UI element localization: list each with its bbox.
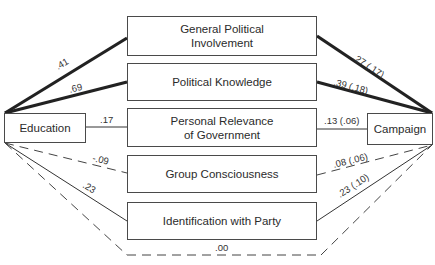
coef-camp-knowledge: .39 (.18) [332, 76, 369, 96]
node-group-consciousness: Group Consciousness [127, 155, 317, 193]
coef-direct: .00 [215, 242, 228, 253]
coef-camp-consciousness: .08 (.06) [332, 151, 369, 170]
node-identification-with-party: Identification with Party [127, 202, 317, 240]
node-label: Identification with Party [163, 214, 281, 228]
node-label: Political Knowledge [172, 75, 272, 89]
node-label-line1: Personal Relevance [171, 114, 274, 128]
node-label-line2: Involvement [191, 36, 253, 50]
path-edu-involvement [5, 38, 127, 113]
path-edu-knowledge [5, 82, 127, 113]
coef-camp-identification: .23 (.10) [335, 171, 371, 200]
coef-edu-involvement: .41 [54, 56, 71, 72]
node-personal-relevance-of-government: Personal Relevance of Government [127, 108, 317, 147]
node-campaign-label: Campaign [374, 122, 426, 136]
path-identification-campaign [317, 145, 432, 221]
node-education-label: Education [19, 121, 70, 135]
node-label-line2: of Government [184, 128, 260, 142]
node-campaign: Campaign [367, 113, 433, 145]
node-political-knowledge: Political Knowledge [127, 63, 317, 101]
node-education: Education [4, 113, 86, 143]
node-general-political-involvement: General Political Involvement [127, 16, 317, 56]
coef-edu-relevance: .17 [100, 114, 113, 125]
coef-camp-involvement: .27 (.17) [351, 51, 387, 80]
coef-camp-relevance: .13 (.06) [324, 115, 359, 126]
node-label-line1: General Political [180, 22, 264, 36]
node-label: Group Consciousness [165, 167, 278, 181]
